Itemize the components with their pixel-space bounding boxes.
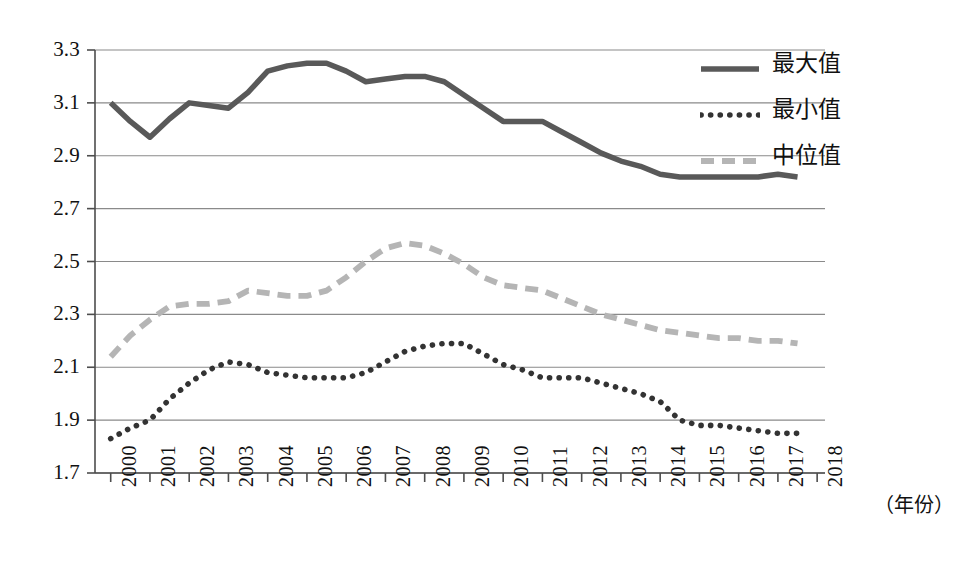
legend-item-label: 最小值: [772, 94, 841, 124]
x-axis-tick-label: 2005: [315, 445, 335, 487]
legend-item: 中位值: [700, 138, 910, 184]
x-axis-tick-label: 2011: [550, 446, 570, 487]
x-axis-tick-label: 2003: [236, 445, 256, 487]
x-axis-tick-label: 2012: [590, 445, 610, 487]
x-axis-tick-label: 2007: [393, 445, 413, 487]
x-axis-tick-label: 2006: [354, 445, 374, 487]
x-axis-tick-label: 2009: [472, 445, 492, 487]
x-axis-tick-label: 2002: [197, 445, 217, 487]
x-axis-tick-label: 2016: [747, 445, 767, 487]
x-axis-tick-label: 2014: [668, 445, 688, 487]
x-axis-tick-label: 2015: [707, 445, 727, 487]
legend-item: 最小值: [700, 92, 910, 138]
dashed-line-swatch: [700, 152, 760, 162]
dotted-line-swatch: [700, 106, 760, 116]
line-chart: 3.33.12.92.72.52.32.11.91.7 200020012002…: [0, 0, 961, 572]
x-axis-tick-label: 2010: [511, 445, 531, 487]
x-axis-tick-label: 2004: [276, 445, 296, 487]
legend-item-label: 最大值: [772, 48, 841, 78]
legend-item-label: 中位值: [772, 140, 841, 170]
x-axis-tick-label: 2017: [786, 445, 806, 487]
x-axis-tick-label: 2013: [629, 445, 649, 487]
legend-item: 最大值: [700, 46, 910, 92]
x-axis-unit-caption: （年份）: [874, 495, 954, 515]
x-axis-tick-label: 2008: [433, 445, 453, 487]
chart-legend: 最大值最小值中位值: [700, 46, 910, 184]
x-axis-tick-label: 2001: [158, 445, 178, 487]
x-axis-tick-label: 2018: [825, 445, 845, 487]
x-axis-tick-label: 2000: [119, 445, 139, 487]
solid-line-swatch: [700, 60, 760, 70]
